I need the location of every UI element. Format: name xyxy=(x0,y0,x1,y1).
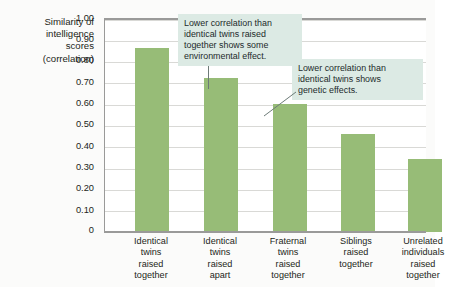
annotation-leader-line-genetic xyxy=(264,92,296,116)
annotation-line: identical twins raised xyxy=(184,29,297,40)
annotation-line: together shows some xyxy=(184,40,297,51)
y-tick-label-0: 0 xyxy=(60,226,94,235)
annotation-genetic-effect: Lower correlation than identical twins s… xyxy=(292,59,423,100)
x-label-unrelated-individuals-raised-together: Unrelated individuals raised together xyxy=(388,236,449,282)
x-label-line: twins xyxy=(253,247,323,258)
x-label-line: together xyxy=(321,259,391,270)
x-label-line: twins xyxy=(185,247,255,258)
y-tick-label-0-20: 0.20 xyxy=(60,184,94,193)
x-label-line: Identical xyxy=(185,236,255,247)
x-label-line: Identical xyxy=(116,236,186,247)
x-label-line: individuals xyxy=(388,247,449,258)
annotation-leader-line-environmental xyxy=(208,66,209,89)
x-label-line: raised xyxy=(253,259,323,270)
annotation-line: environmental effect. xyxy=(184,51,297,62)
y-tick-label-0-70: 0.70 xyxy=(60,78,94,87)
annotation-line: identical twins shows xyxy=(298,74,418,85)
y-tick-label-0-10: 0.10 xyxy=(60,206,94,215)
x-label-line: together xyxy=(116,270,186,281)
x-label-identical-twins-raised-together: Identical twins raised together xyxy=(116,236,186,282)
y-tick-label-0-40: 0.40 xyxy=(60,142,94,151)
y-tick-label-0-60: 0.60 xyxy=(60,99,94,108)
x-label-siblings-raised-together: Siblings raised together xyxy=(321,236,391,270)
annotation-line: Lower correlation than xyxy=(298,63,418,74)
x-label-fraternal-twins-raised-together: Fraternal twins raised together xyxy=(253,236,323,282)
bar-fraternal-twins-raised-together xyxy=(273,104,307,232)
x-label-line: together xyxy=(388,270,449,281)
x-label-line: together xyxy=(253,270,323,281)
x-label-line: raised xyxy=(321,247,391,258)
annotation-line: genetic effects. xyxy=(298,85,418,96)
y-tick-label-1-00: 1.00 xyxy=(60,14,94,23)
y-tick-label-0-90: 0.90 xyxy=(60,35,94,44)
bar-identical-twins-raised-together xyxy=(135,48,169,232)
x-label-line: Siblings xyxy=(321,236,391,247)
x-axis-line xyxy=(104,231,426,233)
x-label-line: raised xyxy=(388,259,449,270)
x-label-line: raised xyxy=(185,259,255,270)
annotation-line: Lower correlation than xyxy=(184,18,297,29)
x-label-line: twins xyxy=(116,247,186,258)
x-label-identical-twins-raised-apart: Identical twins raised apart xyxy=(185,236,255,282)
x-label-line: apart xyxy=(185,270,255,281)
bar-siblings-raised-together xyxy=(341,134,375,232)
y-tick-label-0-50: 0.50 xyxy=(60,120,94,129)
y-tick-label-0-80: 0.80 xyxy=(60,56,94,65)
annotation-environmental-effect: Lower correlation than identical twins r… xyxy=(178,14,302,66)
bar-identical-twins-raised-apart xyxy=(204,78,238,232)
x-label-line: Unrelated xyxy=(388,236,449,247)
y-tick-label-0-30: 0.30 xyxy=(60,163,94,172)
x-label-line: Fraternal xyxy=(253,236,323,247)
bar-unrelated-individuals-raised-together xyxy=(408,159,442,232)
x-label-line: raised xyxy=(116,259,186,270)
